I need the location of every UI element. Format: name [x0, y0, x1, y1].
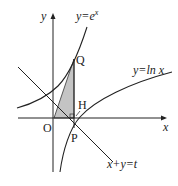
diagram: y x O y=ex y=ln x x+y=t Q H P: [0, 0, 178, 186]
point-H-label: H: [78, 98, 87, 112]
line-label: x+y=t: [106, 157, 138, 171]
y-axis-label: y: [40, 9, 47, 23]
x-axis-label: x: [162, 120, 169, 134]
origin-label: O: [43, 121, 52, 135]
ln-label: y=ln x: [132, 63, 165, 77]
exp-label: y=ex: [75, 8, 99, 23]
y-axis-arrow-icon: [51, 13, 56, 19]
point-Q-label: Q: [76, 53, 85, 67]
point-P-label: P: [71, 131, 78, 145]
exp-curve: [17, 27, 87, 108]
